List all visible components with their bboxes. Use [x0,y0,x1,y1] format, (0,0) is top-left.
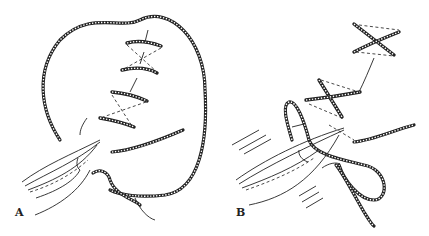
panel-label-a: A [15,206,24,219]
forceps [22,140,100,215]
surgical-suture-figure: A [0,0,429,236]
panel-label-b: B [236,206,245,219]
forceps [236,128,344,205]
suture-strand-right [112,130,183,152]
suture-loop-bottom [322,163,374,226]
middle-cross-stitch [306,80,360,118]
lower-stitch [100,92,147,127]
panel-b-illustration [214,0,429,236]
suture-strand-right [329,125,414,142]
panel-a: A [0,0,214,236]
top-cross-stitch [354,24,399,92]
panel-b: B [214,0,429,236]
panel-a-illustration [0,0,214,236]
upper-stitch [122,30,161,92]
suture-loop-outer [43,16,206,196]
